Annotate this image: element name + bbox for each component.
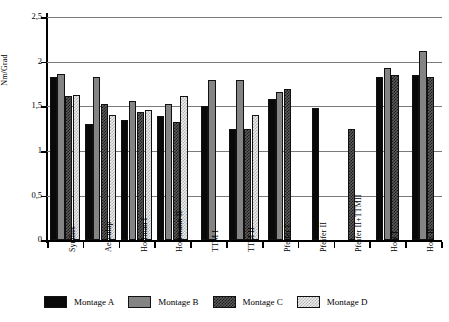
bar-montage-d: [73, 95, 80, 241]
bar-montage-a: [312, 108, 319, 240]
bar-montage-a: [412, 75, 419, 240]
bar-montage-a: [376, 77, 383, 241]
x-tick-mark: [369, 242, 371, 248]
x-axis-label: Aesculap: [104, 221, 113, 252]
legend-item-montage-d: Montage D: [297, 296, 368, 308]
y-axis-title: Nm/Grad: [0, 30, 9, 110]
bar-montage-c: [427, 77, 434, 241]
x-axis-label: Hoffman I: [140, 218, 149, 252]
bar-montage-a: [121, 120, 128, 241]
legend-label: Montage A: [74, 297, 114, 307]
chart-legend: Montage AMontage BMontage CMontage D: [44, 296, 382, 308]
bar-montage-c: [101, 104, 108, 241]
x-tick-mark: [262, 242, 264, 248]
bar-montage-a: [229, 129, 236, 241]
x-axis-label: Pfeifer II+TTMII: [354, 195, 363, 252]
x-tick-mark: [298, 242, 300, 248]
x-tick-mark: [83, 242, 85, 248]
bar-group: [262, 17, 298, 241]
bar-group: [226, 17, 262, 241]
bar-group: [83, 17, 119, 241]
y-tick-label: 1: [38, 145, 42, 155]
bar-montage-b: [384, 68, 391, 241]
x-axis-label: Holz I: [390, 231, 399, 252]
legend-label: Montage D: [327, 297, 368, 307]
swatch-montage-a: [44, 296, 67, 308]
x-axis-label: Holz II: [426, 228, 435, 252]
bar-montage-b: [165, 104, 172, 241]
bar-montage-b: [57, 74, 64, 240]
bar-group: [47, 17, 83, 241]
chart-figure: Nm/Grad 00,511,522,5 SynthesAesculapHoff…: [0, 0, 449, 322]
bars-layer: [47, 17, 442, 241]
x-axis-label: TTM I: [211, 230, 220, 252]
bar-montage-c: [391, 75, 398, 240]
bar-group: [154, 17, 190, 241]
x-tick-mark: [154, 242, 156, 248]
bar-montage-a: [157, 116, 164, 240]
y-tick-label: 2,5: [31, 11, 42, 21]
bar-montage-a: [201, 106, 208, 240]
bar-group: [190, 17, 226, 241]
x-axis-label: TTM II: [247, 227, 256, 252]
bar-montage-b: [236, 80, 243, 241]
bar-montage-a: [50, 77, 57, 241]
bar-montage-a: [85, 124, 92, 240]
x-axis-label: Hoffmann II: [175, 211, 184, 252]
bar-montage-a: [268, 99, 275, 240]
bar-montage-c: [244, 129, 251, 241]
bar-montage-c: [65, 96, 72, 241]
bar-montage-b: [93, 77, 100, 241]
y-tick-label: 0,5: [31, 190, 42, 200]
x-tick-mark: [441, 242, 443, 248]
x-tick-mark: [334, 242, 336, 248]
swatch-montage-c: [213, 296, 236, 308]
y-tick-label: 0: [38, 234, 42, 244]
legend-item-montage-a: Montage A: [44, 296, 114, 308]
x-tick-mark: [119, 242, 121, 248]
bar-montage-b: [129, 101, 136, 240]
legend-item-montage-b: Montage B: [128, 296, 198, 308]
bar-montage-c: [284, 89, 291, 240]
swatch-montage-d: [297, 296, 320, 308]
bar-montage-d: [252, 115, 259, 240]
plot-area: 00,511,522,5: [46, 17, 442, 242]
legend-item-montage-c: Montage C: [213, 296, 283, 308]
x-tick-mark: [405, 242, 407, 248]
legend-label: Montage B: [158, 297, 198, 307]
bar-group: [298, 17, 334, 241]
x-axis-label: Synthes: [68, 226, 77, 252]
legend-label: Montage C: [243, 297, 283, 307]
x-axis-label: Pfeifer I: [283, 225, 292, 252]
bar-montage-b: [276, 92, 283, 240]
y-tick-label: 1,5: [31, 100, 42, 110]
x-axis-label: Pfeifer II: [319, 222, 328, 252]
bar-group: [369, 17, 405, 241]
x-tick-mark: [47, 242, 49, 248]
bar-montage-b: [208, 80, 215, 241]
bar-group: [334, 17, 370, 241]
x-tick-mark: [190, 242, 192, 248]
swatch-montage-b: [128, 296, 151, 308]
y-tick-label: 2: [38, 56, 42, 66]
bar-montage-b: [419, 51, 426, 241]
bar-group: [405, 17, 441, 241]
x-tick-mark: [226, 242, 228, 248]
bar-group: [119, 17, 155, 241]
